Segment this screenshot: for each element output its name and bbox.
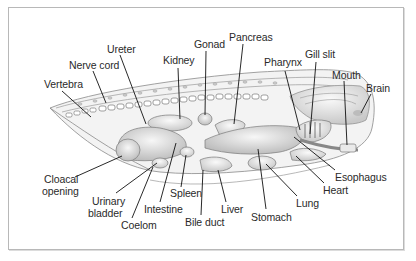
label-kidney: Kidney: [163, 54, 195, 66]
label-gonad: Gonad: [194, 38, 225, 50]
label-intestine: Intestine: [144, 203, 183, 215]
label-pancreas: Pancreas: [229, 31, 273, 43]
label-lung: Lung: [296, 197, 319, 209]
label-brain: Brain: [366, 82, 390, 94]
label-urinary-bladder-line2: bladder: [88, 207, 122, 219]
label-esophagus: Esophagus: [335, 171, 387, 183]
label-nerve-cord: Nerve cord: [69, 59, 119, 71]
label-heart: Heart: [323, 184, 348, 196]
label-ureter: Ureter: [107, 43, 136, 55]
label-coelom: Coelom: [121, 219, 157, 231]
label-pharynx: Pharynx: [264, 56, 302, 68]
label-stomach: Stomach: [251, 211, 292, 223]
label-spleen: Spleen: [170, 187, 202, 199]
label-cloacal-opening-line2: opening: [42, 185, 79, 197]
label-vertebra: Vertebra: [44, 78, 83, 90]
label-bile-duct: Bile duct: [185, 216, 224, 228]
label-liver: Liver: [221, 203, 243, 215]
label-urinary-bladder-line1: Urinary: [92, 195, 125, 207]
label-gill-slit: Gill slit: [305, 48, 335, 60]
label-cloacal-opening-line1: Cloacal: [44, 173, 78, 185]
label-mouth: Mouth: [332, 69, 361, 81]
